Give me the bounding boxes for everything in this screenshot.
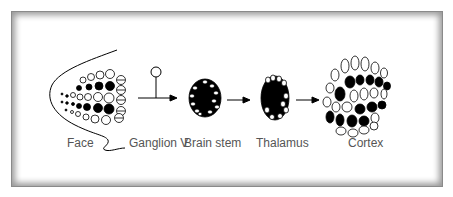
- arrow-icon: [296, 97, 319, 103]
- cortex-cluster: [323, 56, 391, 137]
- arrow-icon: [227, 97, 250, 103]
- thalamus-cluster: [261, 75, 289, 120]
- label-cortex: Cortex: [348, 136, 383, 150]
- ganglion-neuron-icon: [138, 67, 177, 101]
- label-ganglion: Ganglion V: [129, 136, 188, 150]
- label-thalamus: Thalamus: [256, 136, 309, 150]
- pathway-diagram: [0, 0, 453, 197]
- label-brainstem: Brain stem: [184, 136, 241, 150]
- label-face: Face: [67, 136, 94, 150]
- brainstem-cluster: [189, 79, 221, 117]
- face-receptors: [61, 70, 126, 125]
